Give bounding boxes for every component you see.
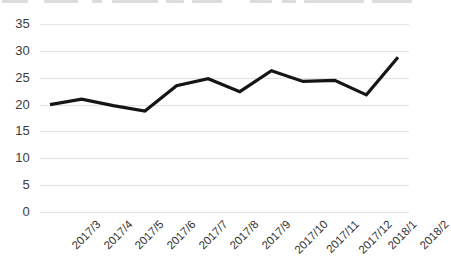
x-tick-label: 2017/10 <box>293 218 331 256</box>
x-tick-label: 2017/6 <box>164 218 197 251</box>
x-tick-label: 2017/11 <box>324 218 361 255</box>
x-tick-label: 2018/2 <box>417 218 450 251</box>
y-tick-label: 15 <box>0 123 30 138</box>
x-axis-tick-labels: 2017/32017/42017/52017/62017/72017/82017… <box>0 214 422 274</box>
x-tick-label: 2017/8 <box>227 218 260 251</box>
plot-area <box>40 24 409 212</box>
x-tick-label: 2017/5 <box>133 218 166 251</box>
y-tick-label: 10 <box>0 150 30 165</box>
x-tick-label: 2017/9 <box>259 218 292 251</box>
x-tick-label: 2017/4 <box>101 218 134 251</box>
x-tick-label: 2017/12 <box>356 218 394 256</box>
x-tick-label: 2017/3 <box>69 218 102 251</box>
y-tick-label: 5 <box>0 177 30 192</box>
gridline <box>40 212 409 213</box>
y-tick-label: 35 <box>0 16 30 31</box>
y-tick-label: 25 <box>0 70 30 85</box>
cropped-title-remnant <box>0 0 422 7</box>
data-series-line <box>40 24 409 212</box>
series-polyline <box>50 57 398 111</box>
y-tick-label: 20 <box>0 97 30 112</box>
x-tick-label: 2017/7 <box>196 218 229 251</box>
y-tick-label: 30 <box>0 43 30 58</box>
